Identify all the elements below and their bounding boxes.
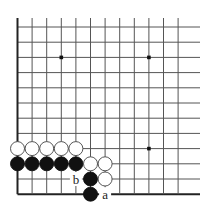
black-stone-icon <box>69 157 83 171</box>
white-stone-icon <box>98 172 112 186</box>
black-stone-icon <box>25 157 39 171</box>
go-board: ba <box>0 0 214 213</box>
star-point-icon <box>60 56 64 60</box>
white-stone-icon <box>11 142 25 156</box>
star-point-icon <box>147 147 151 151</box>
point-label-b: b <box>73 172 80 187</box>
black-stone-icon <box>40 157 54 171</box>
black-stone-icon <box>84 172 98 186</box>
white-stone-icon <box>40 142 54 156</box>
black-stone-icon <box>84 187 98 201</box>
black-stone-icon <box>54 157 68 171</box>
white-stone-icon <box>25 142 39 156</box>
black-stone-icon <box>11 157 25 171</box>
star-point-icon <box>147 56 151 60</box>
point-label-a: a <box>102 187 108 202</box>
white-stone-icon <box>98 157 112 171</box>
white-stone-icon <box>84 157 98 171</box>
white-stone-icon <box>54 142 68 156</box>
white-stone-icon <box>69 142 83 156</box>
go-board-diagram: ba <box>0 0 214 213</box>
